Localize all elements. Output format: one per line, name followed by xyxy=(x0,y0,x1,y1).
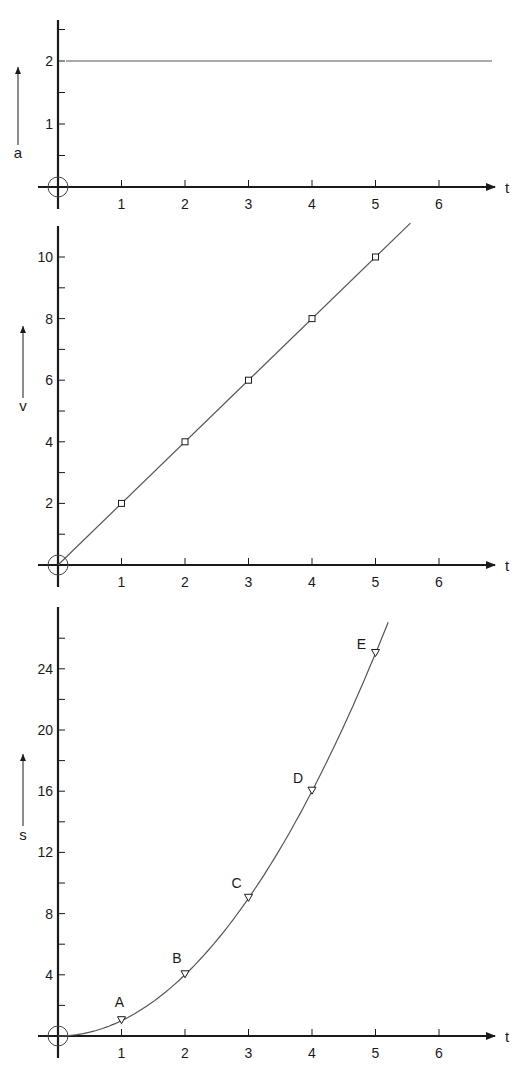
point-label-c: C xyxy=(231,875,241,891)
x-tick-label: 6 xyxy=(435,1045,443,1061)
data-curve xyxy=(58,622,388,1036)
y-tick-label: 2 xyxy=(45,495,53,511)
triangle-marker-icon xyxy=(245,894,253,901)
point-label-d: D xyxy=(293,770,303,786)
data-line xyxy=(58,223,410,565)
x-tick-label: 2 xyxy=(181,1045,189,1061)
square-marker-icon xyxy=(182,439,188,445)
y-tick-label: 24 xyxy=(37,661,53,677)
y-tick-label: 20 xyxy=(37,722,53,738)
y-tick-label: 4 xyxy=(45,967,53,983)
y-tick-label: 8 xyxy=(45,906,53,922)
point-label-a: A xyxy=(115,994,125,1010)
x-tick-label: 3 xyxy=(245,196,253,212)
kinematics-figure: t12345612at123456246810vt123456481216202… xyxy=(0,0,528,1066)
y-tick-label: 6 xyxy=(45,372,53,388)
triangle-marker-icon xyxy=(308,787,316,794)
x-tick-label: 3 xyxy=(245,574,253,590)
x-tick-label: 4 xyxy=(308,574,316,590)
chart-velocity: t123456246810v xyxy=(19,223,510,590)
point-label-e: E xyxy=(357,636,366,652)
triangle-marker-icon xyxy=(372,650,380,657)
square-marker-icon xyxy=(246,377,252,383)
x-tick-label: 6 xyxy=(435,196,443,212)
y-tick-label: 10 xyxy=(37,249,53,265)
x-tick-label: 2 xyxy=(181,574,189,590)
x-tick-label: 5 xyxy=(372,1045,380,1061)
x-axis-label: t xyxy=(505,1028,510,1045)
x-tick-label: 4 xyxy=(308,196,316,212)
y-axis-label: a xyxy=(14,144,23,161)
x-tick-label: 1 xyxy=(118,1045,126,1061)
y-tick-label: 8 xyxy=(45,311,53,327)
x-tick-label: 4 xyxy=(308,1045,316,1061)
y-axis-label: s xyxy=(19,826,27,843)
y-tick-label: 2 xyxy=(45,53,53,69)
x-tick-label: 5 xyxy=(372,196,380,212)
y-tick-label: 1 xyxy=(45,116,53,132)
x-axis-label: t xyxy=(505,179,510,196)
square-marker-icon xyxy=(373,254,379,260)
x-tick-label: 6 xyxy=(435,574,443,590)
x-tick-label: 5 xyxy=(372,574,380,590)
y-tick-label: 4 xyxy=(45,434,53,450)
square-marker-icon xyxy=(309,316,315,322)
point-label-b: B xyxy=(172,950,181,966)
chart-acceleration: t12345612a xyxy=(14,20,510,212)
y-tick-label: 12 xyxy=(37,844,53,860)
square-marker-icon xyxy=(119,500,125,506)
x-axis-label: t xyxy=(505,557,510,574)
x-tick-label: 2 xyxy=(181,196,189,212)
x-tick-label: 1 xyxy=(118,196,126,212)
chart-displacement: t1234564812162024sABCDE xyxy=(19,607,510,1061)
y-tick-label: 16 xyxy=(37,783,53,799)
x-tick-label: 1 xyxy=(118,574,126,590)
y-axis-label: v xyxy=(19,397,27,414)
x-tick-label: 3 xyxy=(245,1045,253,1061)
